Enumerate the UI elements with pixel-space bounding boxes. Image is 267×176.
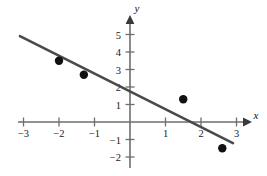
x-tick-label: 2 <box>198 128 203 139</box>
y-tick-label: 3 <box>116 65 121 76</box>
scatter-plot-figure: −3 −2 −1 1 2 3 5 4 3 2 1 −1 −2 x y <box>0 0 267 176</box>
plot-canvas: −3 −2 −1 1 2 3 5 4 3 2 1 −1 −2 x y <box>0 0 267 176</box>
data-point <box>55 57 63 65</box>
y-tick-label: 4 <box>116 47 122 58</box>
y-tick-label: −1 <box>110 135 121 146</box>
x-tick-label: 3 <box>234 128 239 139</box>
x-tick-label: −3 <box>18 128 29 139</box>
data-point <box>80 71 88 79</box>
y-tick-label: 1 <box>116 100 121 111</box>
x-axis-label: x <box>253 109 259 121</box>
data-point <box>218 144 226 152</box>
y-tick-label: 5 <box>116 30 121 41</box>
y-tick-label: −2 <box>110 152 121 163</box>
x-tick-label: 1 <box>163 128 168 139</box>
x-tick-label: −2 <box>53 128 64 139</box>
y-tick-labels: 5 4 3 2 1 −1 −2 <box>110 30 122 164</box>
data-point <box>179 95 187 103</box>
y-axis-label: y <box>134 2 140 14</box>
y-axis-arrow-icon <box>126 15 135 24</box>
x-axis-group <box>18 118 252 127</box>
x-tick-label: −1 <box>89 128 100 139</box>
x-axis-arrow-icon <box>243 118 252 127</box>
